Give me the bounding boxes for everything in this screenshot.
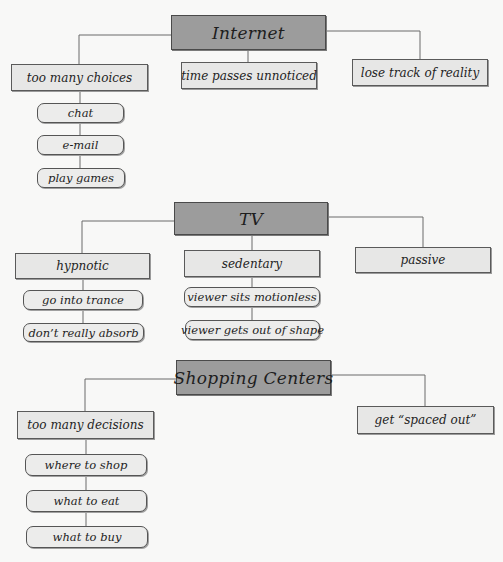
connector-shopping-left — [85, 379, 176, 411]
root-node-shopping-centers: Shopping Centers — [176, 360, 331, 395]
leaf-node-what-to-eat: what to eat — [26, 490, 147, 512]
leaf-node-what-to-buy: what to buy — [26, 526, 148, 548]
branch-node-sedentary: sedentary — [184, 250, 320, 277]
leaf-node-viewer-gets-out-of-shape: viewer gets out of shape — [185, 320, 320, 340]
root-node-tv: TV — [174, 202, 328, 235]
root-node-internet: Internet — [171, 15, 326, 50]
connector-tv-right — [328, 217, 423, 247]
leaf-node-chat: chat — [37, 103, 124, 123]
branch-node-passive: passive — [355, 247, 491, 273]
leaf-node-e-mail: e-mail — [37, 135, 124, 155]
connector-tv-left — [82, 221, 174, 253]
branch-node-get-spaced-out: get “spaced out” — [357, 406, 494, 434]
branch-node-too-many-decisions: too many decisions — [17, 411, 154, 439]
concept-map: Internet too many choices time passes un… — [0, 0, 503, 562]
leaf-node-viewer-sits-motionless: viewer sits motionless — [184, 287, 320, 307]
connector-shopping-right — [331, 375, 425, 406]
leaf-node-where-to-shop: where to shop — [25, 454, 147, 476]
branch-node-time-passes-unnoticed: time passes unnoticed — [181, 62, 317, 89]
branch-node-lose-track-of-reality: lose track of reality — [352, 59, 488, 86]
leaf-node-play-games: play games — [37, 168, 125, 188]
branch-node-too-many-choices: too many choices — [11, 64, 148, 91]
branch-node-hypnotic: hypnotic — [15, 253, 150, 279]
leaf-node-go-into-trance: go into trance — [23, 290, 143, 310]
connector-internet-right — [326, 31, 420, 59]
leaf-node-dont-really-absorb: don’t really absorb — [23, 323, 144, 342]
connector-internet-left — [79, 35, 171, 64]
